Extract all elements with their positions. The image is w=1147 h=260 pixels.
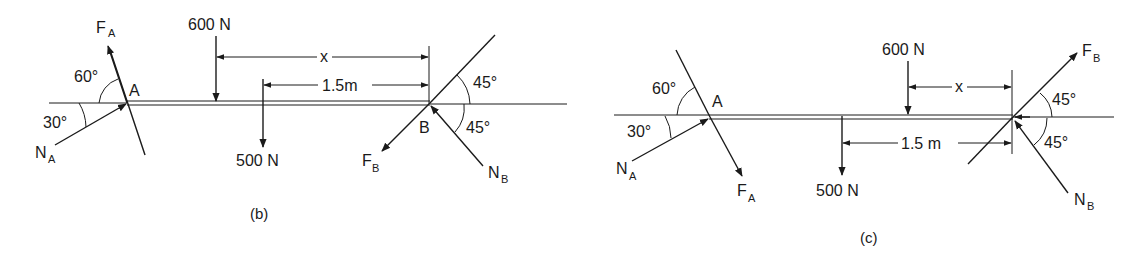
figure-c: 60° A 30° N A F A 600 N x 1.5 m 500 N F … [614, 41, 1114, 246]
label-dim-x: x [320, 48, 328, 65]
surface-line-b [968, 118, 1012, 164]
label-fb-sub: B [372, 162, 379, 174]
label-fa-sub: A [108, 27, 116, 39]
force-fa-arrow [108, 46, 127, 103]
angle-arc-60 [677, 87, 695, 115]
force-fa-arrow [710, 117, 742, 176]
label-fb: F [362, 152, 372, 169]
caption-c: (c) [860, 229, 878, 246]
label-point-a: A [129, 82, 140, 99]
angle-arc-30 [665, 116, 671, 138]
label-point-b: B [419, 119, 430, 136]
label-load-500: 500 N [236, 152, 279, 169]
force-nb-arrow [1015, 121, 1068, 193]
surface-line-a [676, 50, 710, 117]
label-angle-60: 60° [74, 68, 98, 85]
label-na: N [616, 160, 628, 177]
label-fa: F [96, 19, 106, 36]
angle-arc-60 [99, 79, 118, 103]
figure-b: F A 60° A 30° N A 600 N x 1.5m 500 N 45°… [35, 16, 567, 222]
label-na-sub: A [48, 153, 56, 165]
free-body-diagrams: F A 60° A 30° N A 600 N x 1.5m 500 N 45°… [0, 0, 1147, 260]
label-load-600: 600 N [882, 41, 925, 58]
angle-arc-45-top [457, 75, 470, 104]
force-fb-arrow [1012, 53, 1077, 118]
label-point-a: A [712, 93, 723, 110]
force-nb-arrow [431, 106, 483, 166]
surface-line-b [429, 35, 495, 104]
label-fb-sub: B [1093, 52, 1100, 64]
label-fa: F [737, 182, 747, 199]
label-angle-60: 60° [652, 80, 676, 97]
label-nb: N [488, 164, 500, 181]
label-na: N [35, 144, 47, 161]
label-angle-45-bottom: 45° [1044, 134, 1068, 151]
label-nb: N [1074, 191, 1086, 208]
label-nb-sub: B [1087, 200, 1094, 212]
label-dim-15: 1.5m [322, 77, 358, 94]
label-load-600: 600 N [188, 16, 231, 33]
label-angle-30: 30° [43, 114, 67, 131]
label-angle-45-top: 45° [1052, 91, 1076, 108]
angle-arc-30 [79, 103, 86, 127]
label-load-500: 500 N [816, 182, 859, 199]
label-na-sub: A [629, 170, 637, 182]
label-dim-x: x [955, 78, 963, 95]
label-nb-sub: B [501, 173, 508, 185]
label-fb: F [1082, 42, 1092, 59]
angle-arc-45-bottom [455, 104, 464, 132]
angle-arc-45-top [1040, 93, 1052, 117]
label-fa-sub: A [748, 192, 756, 204]
label-dim-15: 1.5 m [901, 135, 941, 152]
label-angle-30: 30° [627, 123, 651, 140]
label-angle-45-bottom: 45° [466, 119, 490, 136]
caption-b: (b) [250, 205, 268, 222]
label-angle-45-top: 45° [473, 74, 497, 91]
